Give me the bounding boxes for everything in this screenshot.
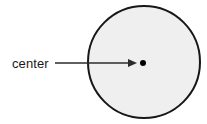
figure-canvas: center [0,0,207,124]
center-label: center [12,56,49,71]
circle-center-diagram: center [0,0,207,124]
center-point-dot [140,60,146,66]
